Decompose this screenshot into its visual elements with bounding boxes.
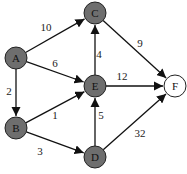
node-label: B (12, 122, 19, 134)
edge-weight-label: 1 (52, 109, 58, 121)
node-c: C (84, 2, 106, 24)
node-label: A (12, 52, 20, 64)
edge-weight-label: 32 (135, 127, 146, 139)
node-d: D (84, 146, 106, 168)
edge-weight-label: 3 (37, 145, 43, 157)
node-a: A (5, 47, 27, 69)
edge-weight-label: 4 (96, 48, 102, 60)
node-f: F (164, 75, 186, 97)
node-e: E (84, 75, 106, 97)
edge-weight-label: 5 (98, 109, 104, 121)
edge-d-f (103, 94, 166, 150)
edge-weight-label: 10 (41, 21, 53, 33)
edge-a-c (26, 19, 85, 53)
weighted-directed-graph: 1062134129532 ABCEDF (0, 0, 187, 174)
edge-weight-label: 2 (6, 85, 12, 97)
edge-weight-label: 6 (52, 57, 58, 69)
node-b: B (5, 117, 27, 139)
node-label: C (91, 7, 98, 19)
node-label: E (92, 80, 99, 92)
node-label: F (172, 80, 178, 92)
edge-b-d (26, 132, 83, 153)
edge-weight-label: 9 (137, 37, 143, 49)
edge-c-f (103, 20, 166, 77)
edge-weight-label: 12 (117, 70, 128, 82)
node-label: D (91, 151, 99, 163)
